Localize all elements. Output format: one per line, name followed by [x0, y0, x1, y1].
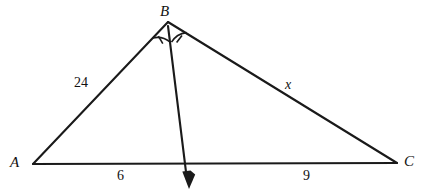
angle-dbc-arc-icon: [172, 33, 187, 43]
segment-ab-line: [33, 22, 168, 164]
vertex-label-b: B: [160, 4, 169, 19]
segment-ab-length-label: 24: [74, 76, 88, 90]
segment-bc-length-label: x: [285, 78, 291, 92]
vertex-label-a: A: [10, 155, 19, 170]
segment-ad-length-label: 6: [117, 169, 124, 183]
segment-bc-line: [168, 22, 397, 163]
segment-ac-line: [33, 163, 397, 164]
geometry-figure: B A C 24 x 6 9: [0, 0, 428, 194]
vertex-label-c: C: [404, 154, 414, 169]
bisector-arrowhead-icon: [182, 171, 195, 189]
geometry-canvas: [0, 0, 428, 194]
segment-dc-length-label: 9: [303, 169, 310, 183]
angle-bisector-line: [168, 26, 187, 180]
